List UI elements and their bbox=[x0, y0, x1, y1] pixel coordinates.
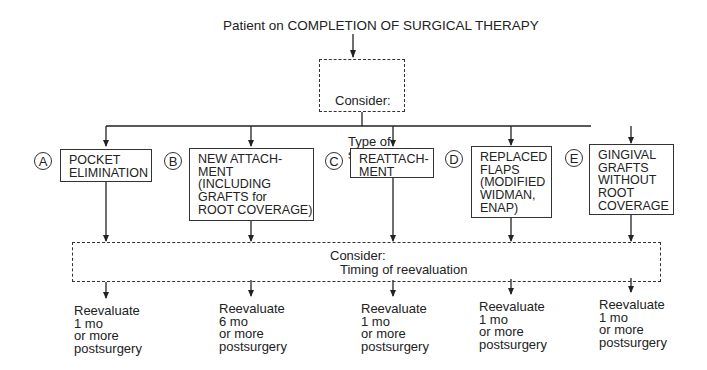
option-letter-c: C bbox=[325, 152, 343, 170]
consider-timing-box: Consider: Timing of reevaluation bbox=[72, 242, 661, 282]
outcome-c: Reevaluate 1 mo or more postsurgery bbox=[361, 303, 429, 353]
consider-timing-text: Timing of reevaluation bbox=[340, 263, 467, 276]
option-box-pocket-elimination: POCKET ELIMINATION bbox=[60, 149, 152, 182]
option-letter-d: D bbox=[445, 150, 463, 168]
outcome-d: Reevaluate 1 mo or more postsurgery bbox=[479, 301, 547, 351]
flowchart-title: Patient on COMPLETION OF SURGICAL THERAP… bbox=[223, 20, 539, 33]
outcome-a: Reevaluate 1 mo or more postsurgery bbox=[74, 305, 142, 355]
consider-type-box: Consider: Type of surgery bbox=[319, 59, 405, 112]
option-letter-e: E bbox=[565, 149, 583, 167]
option-box-replaced-flaps: REPLACED FLAPS (MODIFIED WIDMAN, ENAP) bbox=[471, 146, 552, 218]
option-box-reattachment: REATTACH- MENT bbox=[350, 148, 434, 178]
consider-label: Consider: bbox=[335, 94, 404, 108]
option-box-gingival-grafts: GINGIVAL GRAFTS WITHOUT ROOT COVERAGE bbox=[589, 144, 674, 215]
consider-label: Consider: bbox=[330, 249, 386, 262]
outcome-e: Reevaluate 1 mo or more postsurgery bbox=[599, 299, 667, 349]
option-letter-a: A bbox=[34, 152, 52, 170]
outcome-b: Reevaluate 6 mo or more postsurgery bbox=[219, 303, 287, 353]
option-letter-b: B bbox=[164, 152, 182, 170]
option-box-new-attachment: NEW ATTACH- MENT (INCLUDING GRAFTS for R… bbox=[189, 148, 314, 221]
